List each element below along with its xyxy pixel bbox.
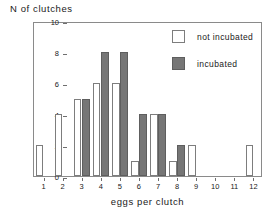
plot-area: 0246810 123456789101112 — [33, 22, 262, 177]
x-tick-mark — [120, 178, 121, 181]
x-tick-label: 7 — [149, 182, 167, 191]
x-tick-mark — [234, 178, 235, 181]
x-tick-label: 9 — [187, 182, 205, 191]
x-tick-mark — [158, 178, 159, 181]
bar-open-3 — [74, 99, 82, 177]
x-tick-mark — [196, 178, 197, 181]
legend-item: not incubated — [172, 30, 253, 43]
x-tick-label: 1 — [35, 182, 53, 191]
x-tick-label: 12 — [244, 182, 262, 191]
bar-open-12 — [246, 145, 254, 176]
y-axis-label: N of clutches — [10, 3, 73, 14]
bar-open-7 — [150, 114, 158, 176]
x-tick-label: 2 — [54, 182, 72, 191]
x-tick-mark — [82, 178, 83, 181]
legend-label: not incubated — [197, 32, 253, 42]
x-tick-mark — [177, 178, 178, 181]
bar-filled-3 — [82, 99, 90, 177]
x-tick-label: 10 — [206, 182, 224, 191]
x-tick-mark — [101, 178, 102, 181]
bar-filled-5 — [120, 52, 128, 176]
y-tick-mark — [63, 116, 67, 117]
x-tick-label: 4 — [92, 182, 110, 191]
x-tick-label: 3 — [73, 182, 91, 191]
x-tick-mark — [215, 178, 216, 181]
bar-open-9 — [188, 145, 196, 176]
y-tick-label: 6 — [55, 80, 59, 89]
bar-filled-6 — [139, 114, 147, 176]
y-tick-label: 10 — [51, 18, 59, 27]
x-tick-mark — [63, 178, 64, 181]
bar-filled-8 — [177, 145, 185, 176]
x-tick-label: 6 — [130, 182, 148, 191]
y-tick-mark — [63, 23, 67, 24]
bar-open-6 — [131, 161, 139, 177]
bar-open-5 — [112, 83, 120, 176]
x-tick-label: 5 — [111, 182, 129, 191]
open-square-swatch — [172, 30, 185, 43]
x-tick-mark — [253, 178, 254, 181]
bar-open-2 — [55, 114, 63, 176]
y-tick-label: 8 — [55, 49, 59, 58]
bar-open-1 — [36, 145, 44, 176]
x-tick-mark — [44, 178, 45, 181]
legend-label: incubated — [197, 59, 237, 69]
x-tick-label: 11 — [225, 182, 243, 191]
x-tick-label: 8 — [168, 182, 186, 191]
bar-filled-7 — [158, 114, 166, 176]
y-tick-mark — [63, 54, 67, 55]
bar-filled-4 — [101, 52, 109, 176]
x-axis-label: eggs per clutch — [33, 196, 262, 207]
filled-square-swatch — [172, 57, 185, 70]
bar-open-4 — [93, 83, 101, 176]
y-tick-mark — [63, 147, 67, 148]
legend-item: incubated — [172, 57, 237, 70]
bar-chart: N of clutches 0246810 123456789101112 eg… — [0, 0, 276, 222]
x-tick-mark — [139, 178, 140, 181]
bar-open-8 — [169, 161, 177, 177]
y-tick-mark — [63, 85, 67, 86]
